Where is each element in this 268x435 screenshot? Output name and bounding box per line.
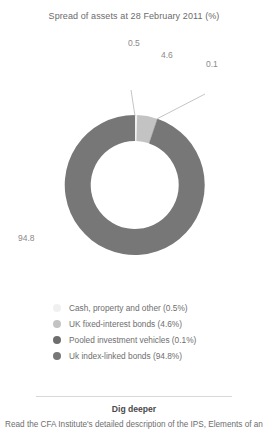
legend-label-uk-index-linked: Uk index-linked bonds (94.8%) — [69, 351, 182, 361]
legend-item-uk-index-linked: Uk index-linked bonds (94.8%) — [0, 348, 268, 364]
leader-line-cash — [131, 90, 135, 116]
chart-page: Spread of assets at 28 February 2011 (%)… — [0, 0, 268, 435]
legend-label-cash: Cash, property and other (0.5%) — [69, 303, 188, 313]
legend-swatch-cash — [53, 304, 61, 312]
chart-legend: Cash, property and other (0.5%) UK fixed… — [0, 300, 268, 364]
legend-swatch-uk-fixed-interest — [53, 320, 61, 328]
pie-slice-uk-index-linked — [65, 115, 205, 255]
data-label-pooled-investment: 0.1 — [206, 59, 218, 69]
legend-item-uk-fixed-interest: UK fixed-interest bonds (4.6%) — [0, 316, 268, 332]
legend-item-cash: Cash, property and other (0.5%) — [0, 300, 268, 316]
footer-description: Read the CFA Institute's detailed descri… — [0, 420, 268, 429]
dig-deeper-heading: Dig deeper — [0, 404, 268, 414]
section-divider — [36, 396, 232, 397]
legend-label-pooled-investment: Pooled investment vehicles (0.1%) — [69, 335, 196, 345]
data-label-uk-index-linked: 94.8 — [18, 233, 35, 243]
data-label-cash: 0.5 — [128, 38, 140, 48]
donut-chart — [0, 28, 268, 298]
donut-chart-svg — [0, 28, 268, 298]
leader-line-pooled — [157, 94, 205, 119]
legend-swatch-pooled-investment — [53, 336, 61, 344]
legend-swatch-uk-index-linked — [53, 352, 61, 360]
legend-label-uk-fixed-interest: UK fixed-interest bonds (4.6%) — [69, 319, 182, 329]
chart-title: Spread of assets at 28 February 2011 (%) — [0, 11, 268, 21]
legend-item-pooled-investment: Pooled investment vehicles (0.1%) — [0, 332, 268, 348]
data-label-uk-fixed-interest: 4.6 — [161, 50, 173, 60]
